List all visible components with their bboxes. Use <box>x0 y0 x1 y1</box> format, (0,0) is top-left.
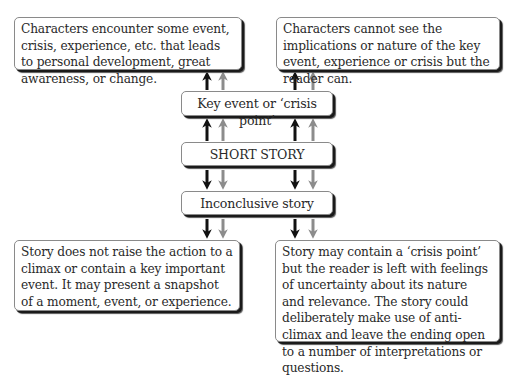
bottom-left-box: Story does not raise the action to a cli… <box>14 240 240 311</box>
top-right-box: Characters cannot see the implications o… <box>276 17 500 70</box>
inconclusive-story-box: Inconclusive story <box>181 191 333 215</box>
inconclusive-story-text: Inconclusive story <box>200 196 314 211</box>
bottom-right-box: Story may contain a ‘crisis point’ but t… <box>275 240 500 342</box>
key-event-box: Key event or ‘crisis point’ <box>181 91 333 116</box>
top-left-box: Characters encounter some event, crisis,… <box>14 17 242 70</box>
short-story-box: SHORT STORY <box>181 142 333 166</box>
bottom-right-text: Story may contain a ‘crisis point’ but t… <box>282 245 488 375</box>
short-story-text: SHORT STORY <box>210 147 305 162</box>
bottom-left-text: Story does not raise the action to a cli… <box>21 245 233 309</box>
